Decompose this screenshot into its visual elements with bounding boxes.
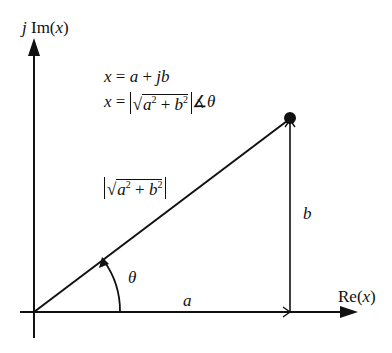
eq-sign: =	[112, 92, 130, 111]
magnitude-vector	[34, 121, 287, 312]
b-label: b	[303, 205, 312, 222]
magnitude-abs: √a2 + b2	[104, 177, 166, 199]
theta-label: θ	[128, 269, 136, 286]
polar-form-equation: x = √a2 + b2∡θ	[104, 92, 215, 114]
imaginary-axis-label: j Im(x)	[22, 19, 69, 36]
sq: 2	[157, 179, 162, 190]
im-var: x	[56, 18, 64, 37]
radicand: a2 + b2	[142, 94, 188, 113]
eq-x: x	[104, 67, 112, 86]
re-text: Re(	[338, 287, 363, 306]
mag-plus: +	[131, 180, 149, 199]
sqrt-icon: √	[133, 95, 142, 114]
a-label: a	[183, 292, 192, 309]
im-text: Im(	[31, 18, 56, 37]
angle-icon: ∡	[192, 92, 207, 111]
phasor-diagram	[0, 0, 392, 353]
complex-point	[284, 112, 296, 124]
magnitude-label: √a2 + b2	[104, 177, 166, 199]
real-axis-arrow-icon	[340, 306, 358, 318]
real-axis-label: Re(x)	[338, 288, 376, 305]
imaginary-axis-arrow-icon	[28, 38, 40, 56]
im-close: )	[63, 18, 69, 37]
eq-jb: jb	[156, 67, 169, 86]
eq-plus: +	[156, 95, 174, 114]
mag-a: a	[117, 180, 126, 199]
eq-a: a	[130, 67, 139, 86]
radicand: a2 + b2	[116, 179, 162, 198]
re-close: )	[370, 287, 376, 306]
j-prefix: j	[22, 18, 27, 37]
re-var: x	[363, 287, 371, 306]
magnitude-abs: √a2 + b2	[130, 92, 192, 114]
sqrt-icon: √	[107, 180, 116, 199]
eq-b: b	[175, 95, 184, 114]
eq-x: x	[104, 92, 112, 111]
angle-arc	[104, 261, 120, 312]
eq-theta: θ	[207, 92, 215, 111]
sq: 2	[183, 94, 188, 105]
eq-plus: +	[138, 67, 156, 86]
rectangular-form-equation: x = a + jb	[104, 68, 169, 85]
eq-sign: =	[112, 67, 130, 86]
